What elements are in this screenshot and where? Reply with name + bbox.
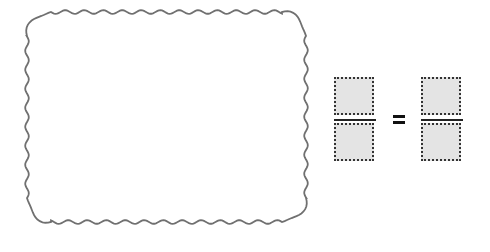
left-numerator-box[interactable] [334,77,374,115]
right-fraction [421,77,465,165]
equals-sign: = [393,115,405,125]
left-fraction-bar [334,119,376,121]
equals-bar-bottom [393,121,405,124]
right-denominator-box[interactable] [421,123,461,161]
left-denominator-box[interactable] [334,123,374,161]
left-fraction [334,77,378,165]
equals-bar-top [393,115,405,118]
drawing-frame [0,0,330,252]
right-numerator-box[interactable] [421,77,461,115]
right-fraction-bar [421,119,463,121]
answer-area[interactable] [40,25,295,210]
